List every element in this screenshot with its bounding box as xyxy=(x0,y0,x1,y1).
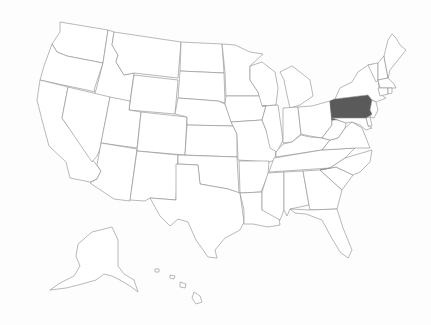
alaska xyxy=(50,227,138,292)
state-ND[interactable] xyxy=(180,42,224,73)
state-AK[interactable] xyxy=(50,227,138,292)
hawaii-island-oahu xyxy=(170,275,175,279)
state-FL[interactable] xyxy=(290,209,352,258)
hawaii xyxy=(155,269,202,304)
state-SD[interactable] xyxy=(178,71,225,103)
state-MI[interactable] xyxy=(280,66,313,108)
contiguous-states xyxy=(37,22,406,258)
hawaii-island-kauai xyxy=(155,269,159,272)
hawaii-island-maui xyxy=(180,282,186,288)
state-CT[interactable] xyxy=(378,88,388,96)
state-MT[interactable] xyxy=(112,32,181,78)
state-NM[interactable] xyxy=(130,151,178,201)
state-RI[interactable] xyxy=(388,88,392,94)
state-MA[interactable] xyxy=(378,78,396,88)
state-NJ[interactable] xyxy=(370,100,378,118)
state-HI[interactable] xyxy=(192,292,202,304)
state-WY[interactable] xyxy=(129,75,178,114)
state-ME[interactable] xyxy=(384,34,406,78)
state-IA[interactable] xyxy=(225,96,266,122)
state-CO[interactable] xyxy=(137,112,187,155)
us-map xyxy=(0,0,431,325)
state-KS[interactable] xyxy=(185,125,237,157)
